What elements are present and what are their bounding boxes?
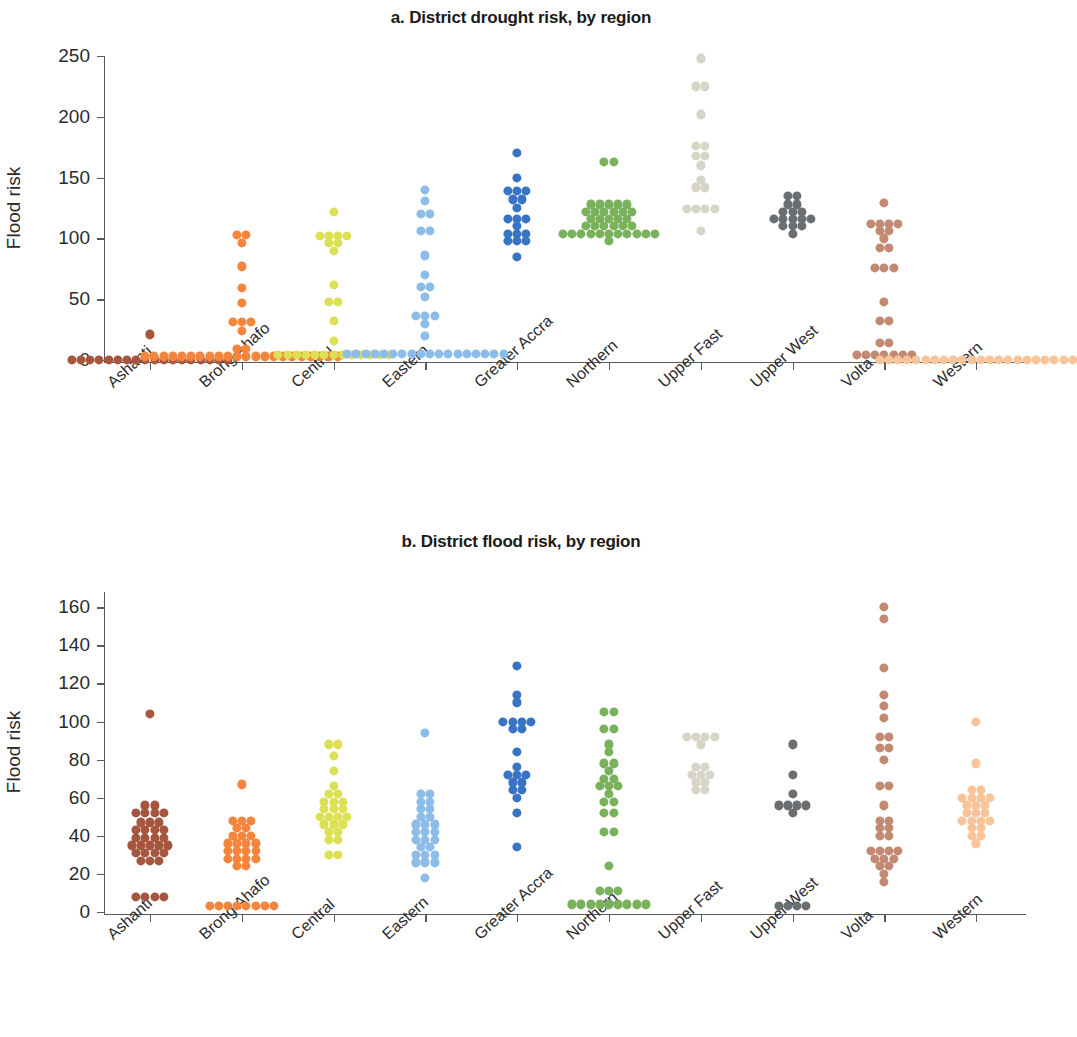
data-point	[453, 349, 462, 358]
data-point	[269, 902, 278, 911]
data-point	[513, 808, 522, 817]
data-point	[416, 227, 425, 236]
data-point	[788, 229, 797, 238]
data-point	[334, 740, 343, 749]
data-point	[421, 858, 430, 867]
x-axis-tick	[242, 915, 243, 922]
data-point	[159, 892, 168, 901]
x-axis-tick	[425, 915, 426, 922]
data-point	[710, 732, 719, 741]
data-point	[894, 219, 903, 228]
data-point	[324, 850, 333, 859]
data-point	[251, 854, 260, 863]
data-point	[237, 284, 246, 293]
data-point	[609, 827, 618, 836]
data-point	[614, 229, 623, 238]
y-axis-tick-label: 60	[18, 787, 90, 809]
data-point	[242, 352, 251, 361]
x-axis-tick	[609, 363, 610, 370]
data-point	[435, 349, 444, 358]
data-point	[1031, 355, 1040, 364]
data-point	[136, 856, 145, 865]
data-point	[641, 229, 650, 238]
data-point	[692, 786, 701, 795]
data-point	[884, 244, 893, 253]
x-axis-tick-label: Greater Accra	[471, 864, 556, 943]
data-point	[508, 725, 517, 734]
data-point	[223, 854, 232, 863]
data-point	[242, 902, 251, 911]
y-axis-tick	[97, 683, 104, 684]
y-axis-tick	[97, 722, 104, 723]
data-point	[880, 263, 889, 272]
data-point	[155, 856, 164, 865]
data-point	[701, 183, 710, 192]
data-point	[600, 725, 609, 734]
y-axis-tick-label: 100	[18, 227, 90, 249]
data-point	[802, 902, 811, 911]
data-point	[577, 900, 586, 909]
x-axis-tick	[150, 915, 151, 922]
data-point	[632, 229, 641, 238]
data-point	[701, 786, 710, 795]
data-point	[871, 263, 880, 272]
y-axis-tick-label: 100	[18, 711, 90, 733]
data-point	[692, 151, 701, 160]
x-axis-tick	[242, 363, 243, 370]
data-point	[329, 207, 338, 216]
data-point	[425, 282, 434, 291]
data-point	[421, 196, 430, 205]
data-point	[985, 816, 994, 825]
x-axis-tick	[425, 363, 426, 370]
y-axis-label: Flood risk	[3, 148, 25, 268]
data-point	[421, 331, 430, 340]
data-point	[329, 316, 338, 325]
data-point	[503, 214, 512, 223]
x-axis-tick	[609, 915, 610, 922]
data-point	[880, 702, 889, 711]
x-axis-tick-label: Upper Fast	[655, 325, 726, 391]
data-point	[430, 312, 439, 321]
data-point	[517, 725, 526, 734]
data-point	[260, 352, 269, 361]
data-point	[324, 835, 333, 844]
y-axis-tick	[97, 299, 104, 300]
data-point	[889, 263, 898, 272]
x-axis-tick	[701, 915, 702, 922]
data-point	[692, 82, 701, 91]
y-axis-tick-label: 40	[18, 825, 90, 847]
data-point	[600, 157, 609, 166]
data-point	[623, 900, 632, 909]
x-axis-tick	[793, 915, 794, 922]
y-axis-tick	[97, 645, 104, 646]
data-point	[145, 709, 154, 718]
x-axis-tick	[517, 915, 518, 922]
data-point	[251, 902, 260, 911]
data-point	[600, 827, 609, 836]
data-point	[513, 149, 522, 158]
data-point	[701, 205, 710, 214]
data-point	[150, 892, 159, 901]
data-point	[692, 205, 701, 214]
data-point	[324, 740, 333, 749]
data-point	[696, 740, 705, 749]
y-axis-tick	[97, 798, 104, 799]
x-axis-tick	[517, 363, 518, 370]
data-point	[880, 603, 889, 612]
y-axis-tick-label: 80	[18, 749, 90, 771]
data-point	[237, 262, 246, 271]
x-axis-tick	[334, 915, 335, 922]
data-point	[880, 297, 889, 306]
data-point	[884, 831, 893, 840]
data-point	[614, 900, 623, 909]
data-point	[696, 54, 705, 63]
data-point	[421, 185, 430, 194]
x-axis-tick	[884, 363, 885, 370]
data-point	[1041, 355, 1050, 364]
data-point	[1022, 355, 1031, 364]
y-axis-tick	[97, 836, 104, 837]
data-point	[444, 349, 453, 358]
y-axis-tick-label: 200	[18, 106, 90, 128]
data-point	[609, 707, 618, 716]
data-point	[513, 747, 522, 756]
